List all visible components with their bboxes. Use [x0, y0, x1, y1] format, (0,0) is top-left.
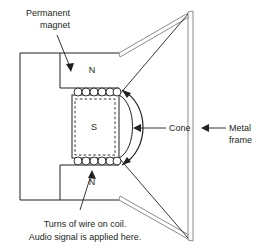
coil-turn	[98, 157, 106, 165]
coil-turn	[113, 88, 121, 96]
callout-metal-frame: Metal frame	[201, 123, 252, 145]
cone-edge-bottom	[119, 158, 188, 238]
pole-label-north-top: N	[89, 65, 96, 75]
arrow-left-icon	[201, 124, 209, 132]
coil-turn	[74, 88, 82, 96]
metal-frame-label-line1: Metal	[229, 123, 251, 133]
frame-strut-bottom-cap	[119, 196, 120, 200]
cone-label: Cone	[169, 123, 191, 133]
motion-arc-head-top	[122, 90, 131, 98]
coil-turn	[90, 157, 98, 165]
coil-caption-line2: Audio signal is applied here.	[29, 232, 142, 242]
frame-top-cap	[188, 11, 193, 12]
coil-caption-line1: Turns of wire on coil.	[44, 219, 127, 229]
frame-strut-top-cap	[119, 53, 120, 57]
pole-label-south: S	[91, 122, 97, 132]
cone-edge-top	[119, 14, 188, 95]
frame-bottom-cap	[188, 240, 193, 241]
frame-strut-top-inner	[120, 17, 189, 57]
coil-turn	[113, 157, 121, 165]
motion-arc-head-bottom	[122, 157, 131, 165]
permanent-magnet-label-line2: magnet	[40, 20, 71, 30]
frame-strut-top-outer	[119, 13, 188, 53]
speaker-cross-section-svg: N N S	[0, 0, 260, 251]
coil-turn	[98, 88, 106, 96]
cone-dome-curve	[119, 95, 133, 158]
coil-turn	[82, 157, 90, 165]
coil-turn	[90, 88, 98, 96]
arrow-left-icon	[133, 124, 141, 132]
frame-strut-bottom-inner	[120, 196, 189, 235]
coil-turn	[82, 88, 90, 96]
loudspeaker-diagram: N N S	[0, 0, 260, 251]
south-pole-group: S	[72, 95, 119, 158]
metal-frame-label-line2: frame	[229, 135, 252, 145]
callout-cone: Cone	[133, 123, 191, 133]
permanent-magnet-label-line1: Permanent	[26, 8, 71, 18]
coil-turn	[74, 157, 82, 165]
